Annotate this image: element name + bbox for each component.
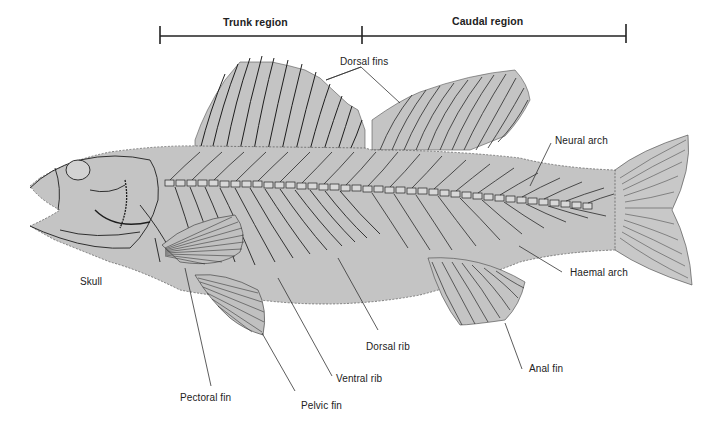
label-dorsal-rib: Dorsal rib xyxy=(366,341,410,352)
label-pelvic-fin: Pelvic fin xyxy=(301,400,342,411)
label-trunk-region: Trunk region xyxy=(223,16,288,28)
label-ventral-rib: Ventral rib xyxy=(336,373,382,384)
label-neural-arch: Neural arch xyxy=(555,135,608,146)
label-caudal-region: Caudal region xyxy=(452,15,523,27)
fish-skeleton-diagram: Trunk region Caudal region Dorsal fins N… xyxy=(0,0,710,425)
label-haemal-arch: Haemal arch xyxy=(570,267,628,278)
label-dorsal-fins: Dorsal fins xyxy=(340,56,388,67)
label-anal-fin: Anal fin xyxy=(529,363,563,374)
first-dorsal-fin xyxy=(195,56,365,150)
second-dorsal-fin xyxy=(372,70,530,150)
anal-fin xyxy=(428,258,525,325)
caudal-fin xyxy=(610,135,692,285)
label-skull: Skull xyxy=(80,276,102,287)
label-pectoral-fin: Pectoral fin xyxy=(180,392,231,403)
